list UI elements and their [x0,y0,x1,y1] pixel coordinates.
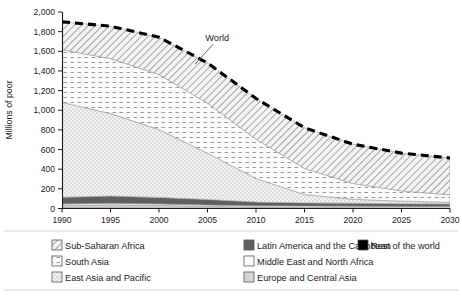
legend-swatch [244,256,254,266]
legend-swatch [358,240,368,250]
x-tick-label: 2005 [198,215,217,225]
x-tick-label: 1990 [52,215,71,225]
y-tick-label: 1,600 [33,46,55,56]
x-axis-ticks: 199019952000200520102015202020252030 [52,209,459,226]
y-axis-ticks: 02004006008001,0001,2001,4001,6001,8002,… [33,7,62,214]
y-tick-label: 200 [41,184,56,194]
annotation-label: World [205,33,229,43]
y-axis-title-text: Millions of poor [4,80,14,139]
x-tick-label: 2000 [149,215,168,225]
stacked-area-chart: Millions of poor 02004006008001,0001,200… [0,0,462,297]
y-tick-label: 800 [41,125,56,135]
x-tick-label: 2030 [440,215,459,225]
chart-container: Millions of poor 02004006008001,0001,200… [0,0,462,297]
y-tick-label: 1,400 [33,66,55,76]
y-tick-label: 1,200 [33,86,55,96]
legend-item-label: Sub-Saharan Africa [65,241,146,251]
legend-item-label: East Asia and Pacific [65,273,151,283]
y-tick-label: 600 [41,145,56,155]
legend-item-label: Europe and Central Asia [257,273,357,283]
legend-swatch [52,240,62,250]
legend-swatch [244,240,254,250]
y-axis-title: Millions of poor [4,80,14,139]
x-tick-label: 2020 [343,215,362,225]
legend-swatch [52,272,62,282]
legend-swatch [52,256,62,266]
legend-item-label: Rest of the world [371,241,440,251]
y-tick-label: 2,000 [33,7,55,17]
y-tick-label: 1,000 [33,105,55,115]
y-tick-label: 0 [50,204,55,214]
y-tick-label: 400 [41,164,56,174]
x-tick-label: 2015 [295,215,314,225]
legend-item-label: Middle East and North Africa [257,257,374,267]
legend-item-label: South Asia [65,257,110,267]
legend-swatch [244,272,254,282]
x-tick-label: 2010 [246,215,265,225]
x-tick-label: 2025 [392,215,411,225]
y-tick-label: 1,800 [33,27,55,37]
stacked-areas [62,22,450,209]
x-tick-label: 1995 [101,215,120,225]
chart-legend: Sub-Saharan AfricaSouth AsiaEast Asia an… [52,240,440,283]
